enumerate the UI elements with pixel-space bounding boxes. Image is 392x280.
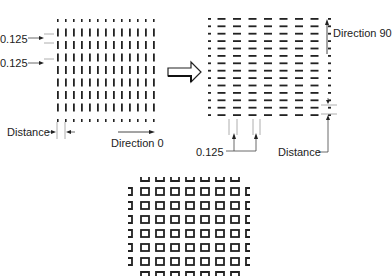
hollow-right-arrow-icon (168, 62, 201, 82)
spacing-label-top: 0.125 (0, 33, 28, 45)
direction-0-label: Direction 0 (111, 137, 164, 149)
left-distance-marker (47, 122, 75, 139)
direction-0-arrow-icon (118, 130, 155, 134)
right-distance-marker (318, 98, 337, 152)
right-spacing-label: 0.125 (196, 146, 224, 158)
left-distance-label: Distance (7, 126, 50, 138)
direction-90-label: Direction 90 (333, 27, 392, 39)
bottom-square-grid (128, 177, 250, 276)
right-spacing-markers (226, 119, 260, 151)
right-horizontal-dash-grid (208, 18, 331, 116)
left-vertical-dash-grid (57, 19, 155, 122)
spacing-label-bottom: 0.125 (0, 57, 28, 69)
right-distance-label: Distance (278, 146, 321, 158)
left-spacing-markers (28, 34, 54, 65)
